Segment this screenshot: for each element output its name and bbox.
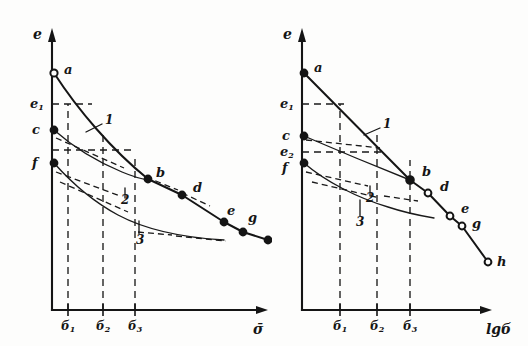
left-point-a [50,69,57,76]
right-x-axis-arrow [480,306,492,314]
left-y-axis-label: e [33,26,42,42]
right-point-f [301,160,308,167]
right-curve-label-1: 1 [383,117,391,131]
left-xtick-label-2: б2 [96,319,111,335]
left-point-e [221,219,228,226]
left-curve-leaders [86,124,139,234]
left-label-d: d [193,180,202,195]
right-aux-dash-f1 [306,172,368,186]
right-curve-2 [304,136,410,180]
left-ylabel-f: f [31,155,40,170]
right-y-axis-label: e [283,26,292,42]
right-point-e [447,213,454,220]
right-xtick-label-3: б3 [403,319,418,335]
right-curve-label-3: 3 [356,215,364,229]
consolidation-curves-figure: e σ̄ e1 c f a b d e g h 1 2 3 [0,0,528,346]
right-ylabel-e2: e2 [280,144,294,161]
right-point-d [425,190,432,197]
left-aux-dash-c [56,138,124,168]
left-ylabel-e1: e1 [30,96,44,113]
left-x-axis-label: σ̄ [253,321,264,337]
right-chart-svg: e lgб e1 c e2 f a b d e g h 1 2 [272,0,528,346]
left-point-labels: a b d e g h [64,62,272,239]
right-xtick-label-1: б1 [333,319,347,335]
right-axes [298,28,492,314]
left-point-c [51,127,58,134]
right-point-a [301,70,308,77]
left-point-h [265,237,272,244]
left-curve-label-2: 2 [120,193,129,207]
right-x-tick-labels: б1 б2 б3 [333,319,418,335]
right-ylabel-e1: e1 [280,96,294,113]
chart-panel-e-vs-sigma: e σ̄ e1 c f a b d e g h 1 2 3 [0,0,272,346]
right-leader-1 [364,128,380,135]
left-label-a: a [64,62,72,77]
right-aux-dash-2 [384,196,418,201]
left-x-tick-labels: б1 б2 б3 [61,319,143,335]
left-y-axis-arrow [48,28,56,42]
right-curve-number-labels: 1 2 3 [356,117,391,229]
right-y-labels: e1 c e2 f [280,96,294,175]
left-point-g [240,229,247,236]
left-data-points [50,69,271,243]
left-curve-label-3: 3 [136,233,144,247]
right-label-a: a [314,60,322,75]
left-point-d [179,192,186,199]
left-label-e: e [227,203,235,218]
right-label-b: b [422,164,431,179]
right-ylabel-c: c [282,128,290,143]
right-label-e: e [461,201,469,216]
left-point-b [145,176,152,183]
right-label-d: d [440,179,449,194]
right-label-h: h [497,254,506,269]
left-point-f [51,160,58,167]
right-curve-1 [304,73,410,180]
left-x-axis-arrow [256,306,268,314]
right-y-axis-arrow [298,28,306,42]
chart-panel-e-vs-lg-sigma: e lgб e1 c e2 f a b d e g h 1 2 [272,0,528,346]
right-label-g: g [472,216,481,231]
left-ylabel-c: c [32,122,40,137]
left-curve-label-1: 1 [105,113,113,127]
right-curve-label-2: 2 [365,191,374,205]
right-xtick-label-2: б2 [370,319,385,335]
left-chart-svg: e σ̄ e1 c f a b d e g h 1 2 3 [0,0,272,346]
right-ylabel-f: f [281,160,290,175]
left-y-labels: e1 c f [30,96,44,170]
left-xtick-label-3: б3 [128,319,143,335]
right-point-g [459,223,466,230]
left-xtick-label-1: б1 [61,319,75,335]
right-x-axis-label: lgб [486,321,511,337]
right-point-c [301,133,308,140]
left-label-g: g [248,210,257,225]
left-label-b: b [156,165,165,180]
right-point-h [485,259,492,266]
right-point-b [406,176,414,184]
